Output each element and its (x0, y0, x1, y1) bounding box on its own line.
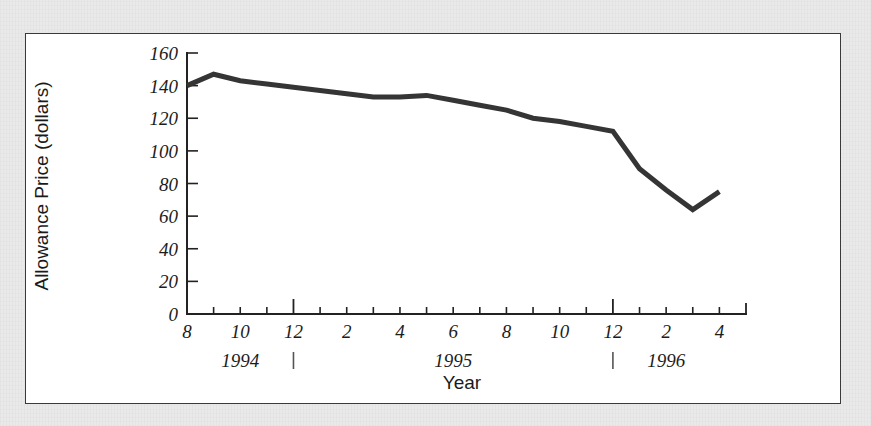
x-axis: 810122468101224 (182, 299, 746, 342)
y-axis-tick-label: 40 (159, 239, 179, 260)
x-axis-tick-label: 10 (550, 321, 570, 342)
x-axis-tick-label: 6 (448, 321, 458, 342)
y-axis-tick-label: 100 (150, 141, 179, 162)
y-axis-tick-label: 0 (169, 304, 179, 325)
y-axis-tick-label: 20 (159, 271, 179, 292)
x-axis-tick-label: 10 (231, 321, 251, 342)
y-axis-tick-label: 60 (159, 206, 179, 227)
figure-root: 020406080100120140160 810122468101224 19… (0, 0, 871, 426)
x-axis-tick-label: 2 (342, 321, 352, 342)
data-series-allowance-price (187, 74, 719, 209)
x-axis-year-label: 1996 (647, 350, 686, 371)
y-axis-tick-label: 120 (150, 108, 179, 129)
y-axis-tick-label: 160 (150, 43, 179, 64)
x-axis-tick-label: 8 (502, 321, 512, 342)
y-axis-tick-label: 80 (159, 174, 179, 195)
chart-panel: 020406080100120140160 810122468101224 19… (25, 33, 841, 404)
x-axis-tick-label: 4 (715, 321, 725, 342)
y-axis-tick-label: 140 (150, 76, 179, 97)
line-chart-plot: 020406080100120140160 810122468101224 19… (26, 34, 841, 404)
allowance-price-line (187, 74, 719, 209)
x-axis-tick-label: 12 (284, 321, 304, 342)
x-axis-year-label: 1995 (434, 350, 472, 371)
x-axis-year-label: 1994 (221, 350, 260, 371)
x-axis-tick-label: 2 (661, 321, 671, 342)
y-axis-title: Allowance Price (dollars) (31, 81, 52, 290)
x-axis-title: Year (443, 372, 482, 393)
x-axis-tick-label: 8 (182, 321, 192, 342)
x-axis-year-labels: 199419951996 (221, 350, 685, 371)
x-axis-tick-label: 12 (603, 321, 623, 342)
x-axis-tick-label: 4 (395, 321, 405, 342)
